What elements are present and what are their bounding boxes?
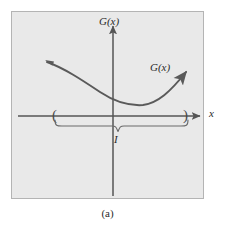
y-axis-label: G(x) bbox=[99, 16, 119, 27]
curve-label: G(x) bbox=[150, 62, 170, 73]
figure-container: ( ) G(x) x G(x) I (a) bbox=[0, 0, 233, 231]
x-axis-label: x bbox=[209, 108, 214, 119]
interval-open-paren: ( bbox=[52, 108, 57, 123]
plot-panel bbox=[11, 11, 204, 199]
interval-label: I bbox=[114, 134, 118, 145]
figure-caption: (a) bbox=[0, 207, 215, 219]
interval-close-paren: ) bbox=[183, 108, 188, 123]
